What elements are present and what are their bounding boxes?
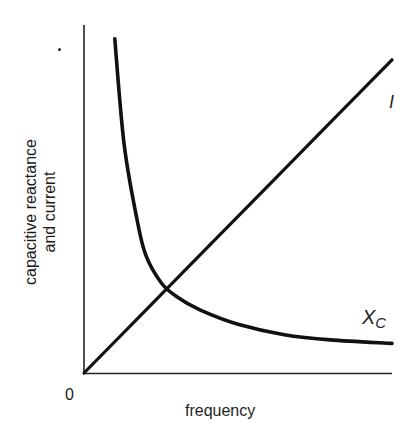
stray-dot-mark <box>58 48 61 51</box>
series-label-xc-main: X <box>362 306 375 328</box>
chart-canvas <box>0 0 415 442</box>
axes <box>83 25 392 374</box>
x-axis-label: frequency <box>185 402 255 420</box>
y-axis-label: capacitive reactance and current <box>21 139 59 285</box>
series-label-xc: XC <box>362 306 386 331</box>
series-label-i: I <box>389 92 394 113</box>
origin-label: 0 <box>65 386 74 404</box>
y-axis-label-line-2: and current <box>40 139 59 285</box>
y-axis-label-line-1: capacitive reactance <box>21 139 40 285</box>
series-label-xc-subscript: C <box>375 314 386 331</box>
